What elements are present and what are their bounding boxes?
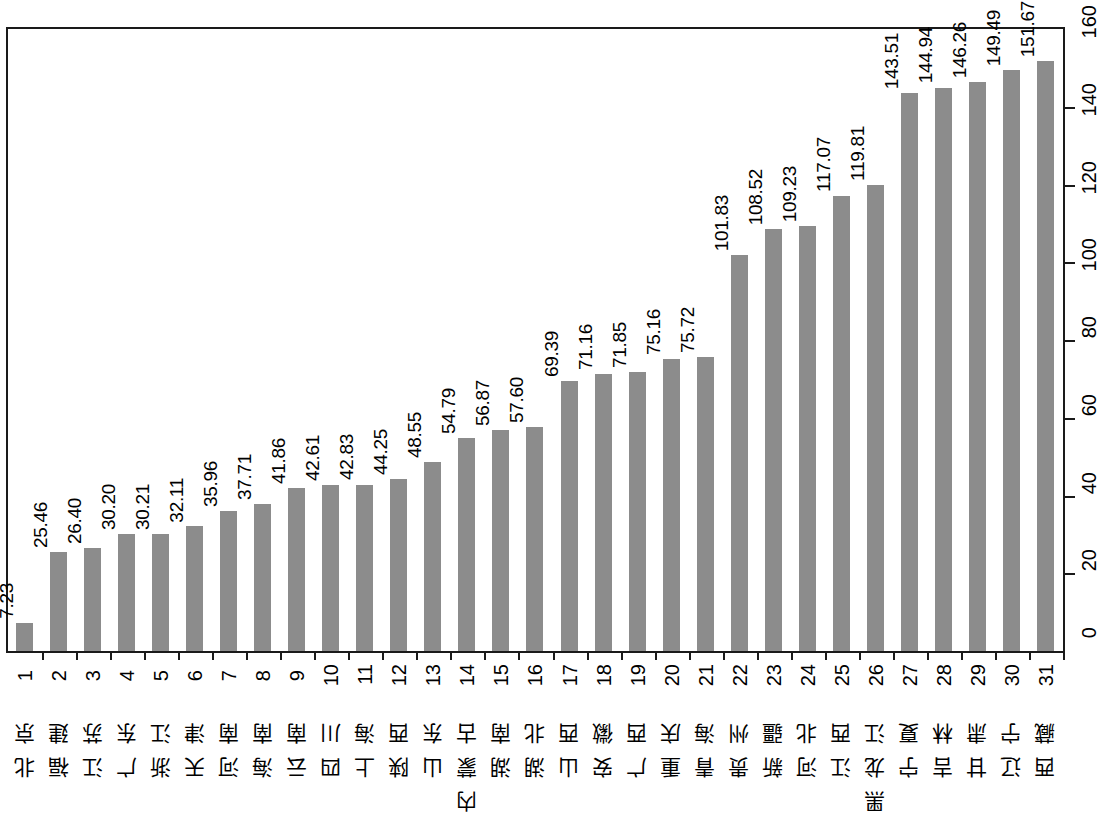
x-axis-index-label: 31: [1029, 664, 1063, 689]
x-axis-category-label: 山东: [416, 710, 450, 781]
x-axis-category-text: 重庆: [661, 710, 682, 778]
x-axis-category-label: 四川: [314, 710, 348, 781]
x-axis-category-label: 西藏: [1029, 710, 1063, 781]
bar: [84, 548, 101, 651]
y-axis-tick-label: 160: [1079, 5, 1099, 38]
bar-value-label: 41.86: [269, 438, 288, 484]
x-axis-category-label: 甘肃: [961, 710, 995, 781]
bar: [390, 479, 407, 651]
x-axis-category-label: 河南: [212, 710, 246, 781]
x-axis-category-text: 山西: [559, 710, 580, 778]
x-axis-tick: [961, 651, 963, 660]
bar-group: 35.96: [212, 29, 246, 651]
x-axis-category-text: 海南: [253, 710, 274, 778]
y-axis-tick: [1065, 573, 1075, 575]
x-axis-category-text: 湖北: [525, 710, 546, 778]
x-axis-category-label: 贵州: [723, 710, 757, 781]
bar-group: 41.86: [280, 29, 314, 651]
bar-value-label: 117.07: [814, 137, 833, 192]
bar-value-label: 75.16: [644, 309, 663, 355]
x-axis-tick: [655, 651, 657, 660]
x-axis-category-label: 江西: [825, 710, 859, 781]
x-axis-category-text: 江西: [831, 710, 852, 778]
x-axis-index-label: 30: [995, 664, 1029, 689]
x-axis-category-text: 青海: [695, 710, 716, 778]
bar-value-label: 26.40: [65, 498, 84, 544]
bar-value-label: 101.83: [712, 195, 731, 251]
x-axis-category-text: 山东: [423, 710, 444, 778]
x-axis-index-label: 19: [621, 664, 655, 689]
bar: [492, 430, 509, 651]
x-axis-tick: [995, 651, 997, 660]
x-axis-index-label: 24: [791, 664, 825, 689]
x-axis-category-text: 贵州: [729, 710, 750, 778]
x-axis-tick: [416, 651, 418, 660]
bar: [186, 526, 203, 651]
bar: [356, 485, 373, 652]
x-axis-category-label: 新疆: [757, 710, 791, 781]
x-axis-index-text: 25: [832, 664, 852, 686]
x-axis-category-label: 安徽: [587, 710, 621, 781]
x-axis-category-label: 陕西: [382, 710, 416, 781]
x-axis-index-label: 27: [893, 664, 927, 689]
x-axis-index-text: 30: [1002, 664, 1022, 686]
x-axis-index-label: 17: [553, 664, 587, 689]
x-axis-tick: [484, 651, 486, 660]
x-axis-index-label: 3: [76, 664, 110, 684]
x-axis-index-label: 28: [927, 664, 961, 689]
bar-group: 143.51: [893, 29, 927, 651]
bar: [799, 226, 816, 651]
x-axis-tick: [1029, 651, 1031, 660]
x-axis-tick: [382, 651, 384, 660]
x-axis-index-label: 21: [689, 664, 723, 689]
x-axis-index-label: 15: [484, 664, 518, 689]
bar-value-label: 143.51: [882, 33, 901, 89]
y-axis-tick-label: 140: [1079, 83, 1099, 116]
x-axis-category-text: 浙江: [151, 710, 172, 778]
bar-group: 7.23: [8, 29, 42, 651]
x-axis-category-label: 宁夏: [893, 710, 927, 781]
x-axis-index-labels: 1234567891011121314151617181920212223242…: [8, 664, 1063, 706]
x-axis-index-label: 23: [757, 664, 791, 689]
bar: [833, 196, 850, 651]
bar-value-label: 7.23: [0, 583, 16, 619]
x-axis-category-text: 安徽: [593, 710, 614, 778]
x-axis-category-label: 广东: [110, 710, 144, 781]
x-axis-category-label: 海南: [246, 710, 280, 781]
x-axis-index-text: 4: [117, 670, 137, 681]
x-axis-category-text: 宁夏: [899, 710, 920, 778]
x-axis-index-text: 12: [389, 664, 409, 686]
x-axis-tick: [553, 651, 555, 660]
bar: [663, 359, 680, 651]
bar: [595, 374, 612, 651]
x-axis-tick: [791, 651, 793, 660]
x-axis-tick: [518, 651, 520, 660]
x-axis-tick: [280, 651, 282, 660]
x-axis-category-label: 云南: [280, 710, 314, 781]
x-axis-index-text: 24: [798, 664, 818, 686]
x-axis-ticks: [8, 651, 1063, 661]
bar-value-label: 25.46: [31, 502, 50, 548]
x-axis-index-text: 17: [560, 664, 580, 686]
bar-group: 54.79: [450, 29, 484, 651]
x-axis-index-text: 15: [491, 664, 511, 686]
y-axis-tick-label: 20: [1079, 549, 1099, 571]
bar: [288, 488, 305, 651]
bar-group: 101.83: [723, 29, 757, 651]
bar: [935, 88, 952, 651]
y-axis: 020406080100120140160: [1065, 27, 1112, 653]
bar: [16, 623, 33, 651]
x-axis-category-text: 广西: [627, 710, 648, 778]
x-axis-category-label: 黑龙江: [859, 710, 893, 815]
bar-group: 48.55: [416, 29, 450, 651]
bar-group: 44.25: [382, 29, 416, 651]
bar-value-label: 30.21: [133, 484, 152, 530]
x-axis-tick: [621, 651, 623, 660]
x-axis-index-label: 26: [859, 664, 893, 689]
bar-value-label: 42.61: [303, 435, 322, 481]
x-axis-tick: [859, 651, 861, 660]
x-axis-tick: [42, 651, 44, 660]
bar-group: 119.81: [859, 29, 893, 651]
x-axis-index-label: 6: [178, 664, 212, 684]
